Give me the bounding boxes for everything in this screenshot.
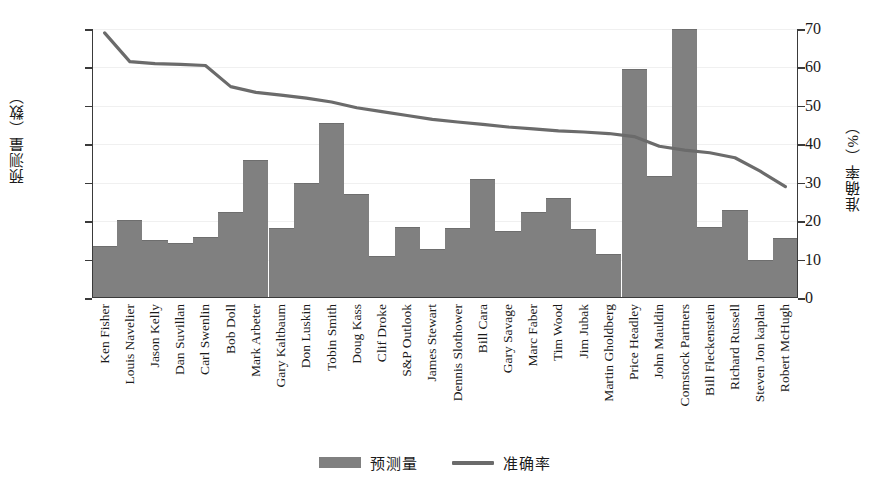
x-tick-label: Bob Doll [224,304,238,354]
y-tick-mark-left [85,221,92,223]
x-tick-label: Clif Droke [375,304,389,362]
x-tick-label: Gary Savage [501,304,515,373]
x-tick-label: Tim Wood [551,304,565,361]
y-tick-label-right: 40 [805,136,821,152]
legend-item-bar: 预测量 [319,452,418,473]
y-tick-label-right: 70 [805,21,821,37]
x-tick-label: S&P Outlook [400,304,414,377]
x-axis-labels: Ken FisherLouis NavelierJason KellyDan S… [92,300,798,440]
y-tick-mark-right [798,29,805,31]
y-tick-mark-left [85,67,92,69]
x-tick-label: Ken Fisher [98,304,112,364]
y-tick-label-right: 30 [805,175,821,191]
y-tick-mark-left [85,298,92,300]
y-tick-mark-right [798,144,805,146]
x-tick-label: James Stewart [425,304,439,382]
x-tick-label: John Mauldin [652,304,666,379]
accuracy-line [105,33,786,187]
chart-legend: 预测量 准确率 [0,452,869,473]
y-tick-mark-right [798,298,805,300]
y-tick-label-right: 0 [805,290,813,306]
x-tick-label: Don Luskin [299,304,313,368]
x-tick-label: Jason Kelly [148,304,162,367]
x-tick-label: Comstock Partners [678,304,692,406]
legend-item-line: 准确率 [452,452,551,473]
x-tick-label: Bill Fleckenstein [703,304,717,396]
x-tick-label: Carl Swenlin [198,304,212,375]
x-tick-label: Martin Gholdberg [602,304,616,402]
y-tick-mark-left [85,144,92,146]
y-tick-label-right: 50 [805,98,821,114]
y-tick-mark-right [798,67,805,69]
y-axis-title-right: 准确率（%） [842,118,863,212]
x-tick-label: Dan Suvillan [173,304,187,375]
x-tick-label: Louis Navelier [123,304,137,385]
x-tick-label: Price Headley [627,304,641,380]
line-series [92,29,798,298]
x-tick-label: Steven Jon kaplan [753,304,767,402]
y-tick-label-right: 10 [805,252,821,268]
legend-label-bar: 预测量 [370,452,418,473]
plot-area [92,29,798,298]
x-tick-label: Gary Kaltbaum [274,304,288,388]
y-tick-mark-left [85,183,92,185]
y-tick-mark-right [798,106,805,108]
legend-bar-swatch-icon [319,457,361,468]
x-tick-label: Dennis Slothower [451,304,465,401]
x-tick-label: Robert McHugh [778,304,792,392]
x-tick-label: Doug Kass [350,304,364,364]
x-tick-label: Jim Jubak [577,304,591,358]
x-tick-label: Richard Russell [728,304,742,390]
x-tick-label: Mark Arbeter [249,304,263,377]
y-tick-mark-right [798,221,805,223]
chart-container: 预测量（数） 准确率（%） 40035030025020015010050 70… [0,0,869,502]
y-axis-title-left: 预测量（数） [6,88,27,184]
y-tick-mark-left [85,29,92,31]
x-tick-label: Tobin Smith [325,304,339,371]
y-tick-mark-left [85,106,92,108]
x-tick-label: Bill Cara [476,304,490,353]
x-tick-label: Marc Faber [526,304,540,367]
y-tick-label-right: 20 [805,213,821,229]
legend-label-line: 准确率 [503,452,551,473]
y-tick-mark-left [85,260,92,262]
y-tick-mark-right [798,183,805,185]
legend-line-swatch-icon [452,461,494,465]
y-tick-label-right: 60 [805,59,821,75]
y-tick-mark-right [798,260,805,262]
